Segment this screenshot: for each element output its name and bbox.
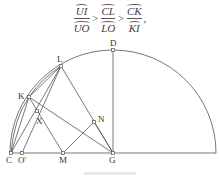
segment-kl <box>29 66 61 97</box>
label-x: X <box>36 116 43 126</box>
label-l: L <box>57 54 63 64</box>
label-d: D <box>110 38 117 48</box>
label-n: N <box>98 114 105 124</box>
point-d-marker <box>112 49 115 52</box>
label-c: C <box>6 155 12 165</box>
label-k: K <box>18 91 25 101</box>
segment-km <box>29 97 63 153</box>
point-x-marker <box>36 110 39 113</box>
segment-ng <box>94 122 113 153</box>
figure-caption-faint <box>84 172 136 175</box>
point-l-marker <box>60 65 63 68</box>
label-g: G <box>109 155 116 165</box>
label-m: M <box>59 155 67 165</box>
label-o-prime: O' <box>18 155 26 165</box>
geometry-figure: D L K X N C O' M G <box>0 0 219 176</box>
point-n-marker <box>93 121 96 124</box>
point-k-marker <box>28 96 31 99</box>
